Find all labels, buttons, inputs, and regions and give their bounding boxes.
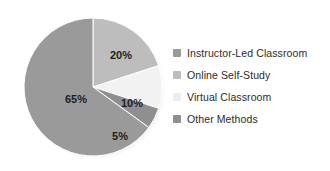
legend-item-virtual-classroom[interactable]: Virtual Classroom bbox=[173, 86, 330, 108]
legend-swatch-icon bbox=[173, 71, 181, 79]
pie-chart-figure: 65%20%10%5% Instructor-Led Classroom Onl… bbox=[0, 0, 330, 171]
legend-item-online-self-study[interactable]: Online Self-Study bbox=[173, 64, 330, 86]
legend-item-label: Virtual Classroom bbox=[187, 92, 271, 103]
legend-item-label: Other Methods bbox=[187, 114, 258, 125]
legend-item-other-methods[interactable]: Other Methods bbox=[173, 108, 330, 130]
legend-item-instructor-led-classroom[interactable]: Instructor-Led Classroom bbox=[173, 42, 330, 64]
chart-legend: Instructor-Led Classroom Online Self-Stu… bbox=[173, 42, 330, 130]
pie-slice-value-label: 10% bbox=[121, 97, 143, 109]
pie-slice-value-label: 20% bbox=[110, 49, 132, 61]
pie-slice-value-label: 65% bbox=[65, 93, 87, 105]
legend-swatch-icon bbox=[173, 115, 181, 123]
legend-swatch-icon bbox=[173, 49, 181, 57]
pie-chart-svg: 65%20%10%5% bbox=[20, 13, 166, 163]
pie-slice-value-label: 5% bbox=[112, 130, 128, 142]
pie-chart-area: 65%20%10%5% bbox=[20, 13, 166, 163]
legend-item-label: Instructor-Led Classroom bbox=[187, 48, 307, 59]
pie-slices bbox=[24, 18, 162, 156]
legend-item-label: Online Self-Study bbox=[187, 70, 270, 81]
legend-swatch-icon bbox=[173, 93, 181, 101]
